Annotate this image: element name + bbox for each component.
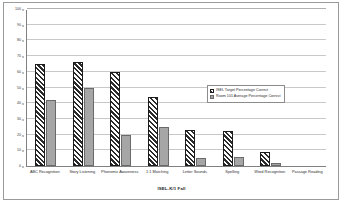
bar: [271, 163, 281, 166]
bar: [196, 158, 206, 166]
y-tick-mark-70: [22, 57, 24, 58]
x-axis-title: ISEL-K/1 Fall: [0, 186, 343, 191]
y-tick-label-60: 60: [17, 71, 21, 75]
legend-swatch-icon-room: [210, 95, 214, 99]
y-tick-mark-30: [22, 119, 24, 120]
chart-legend: ISEL Target Percentage Correct Room 101 …: [207, 85, 285, 103]
bar-group: [140, 10, 178, 166]
y-tick-mark-100: [22, 10, 24, 11]
bar-group: [65, 10, 103, 166]
y-tick-mark-10: [22, 151, 24, 152]
x-tick-label: Story Listening: [64, 169, 102, 174]
bar-group: [290, 10, 328, 166]
bar: [121, 135, 131, 166]
bar: [185, 130, 195, 166]
x-tick-label: Letter Sounds: [176, 169, 214, 174]
legend-label-target: ISEL Target Percentage Correct: [216, 89, 268, 93]
x-tick-label: Phonemic Awareness: [101, 169, 139, 174]
legend-label-room: Room 101 Average Percentage Correct: [216, 95, 281, 99]
x-axis-labels: ABC RecognitionStory ListeningPhonemic A…: [26, 169, 326, 187]
legend-swatch-icon-target: [210, 89, 214, 93]
y-tick-label-100: 100: [15, 8, 21, 12]
y-tick-label-20: 20: [17, 134, 21, 138]
x-tick-label: 1:1 Matching: [139, 169, 177, 174]
y-tick-label-50: 50: [17, 87, 21, 91]
y-tick-mark-80: [22, 41, 24, 42]
x-tick-label: Passage Reading: [289, 169, 327, 174]
y-tick-label-0: 0: [19, 165, 21, 169]
bar-group: [27, 10, 65, 166]
y-tick-mark-0: [22, 167, 24, 168]
bar: [260, 152, 270, 166]
bar: [159, 127, 169, 166]
y-tick-mark-40: [22, 104, 24, 105]
y-tick-label-10: 10: [17, 150, 21, 154]
bar: [84, 88, 94, 167]
bar: [73, 62, 83, 166]
y-tick-mark-60: [22, 72, 24, 73]
y-tick-label-40: 40: [17, 102, 21, 106]
bar: [148, 97, 158, 166]
x-tick-label: Word Recognition: [251, 169, 289, 174]
y-tick-mark-50: [22, 88, 24, 89]
y-tick-label-80: 80: [17, 40, 21, 44]
bar: [234, 157, 244, 166]
x-tick-label: Spelling: [214, 169, 252, 174]
bar-group: [102, 10, 140, 166]
legend-item-room-average: Room 101 Average Percentage Correct: [210, 94, 281, 100]
bar: [35, 64, 45, 166]
bar: [46, 100, 56, 166]
bar: [110, 72, 120, 166]
y-tick-label-70: 70: [17, 55, 21, 59]
x-tick-label: ABC Recognition: [26, 169, 64, 174]
chart-container: 0102030405060708090100 ABC RecognitionSt…: [0, 0, 343, 203]
y-tick-label-90: 90: [17, 24, 21, 28]
y-tick-mark-20: [22, 135, 24, 136]
y-tick-mark-90: [22, 25, 24, 26]
bar: [223, 131, 233, 166]
y-tick-label-30: 30: [17, 118, 21, 122]
y-axis: 0102030405060708090100: [0, 10, 24, 167]
